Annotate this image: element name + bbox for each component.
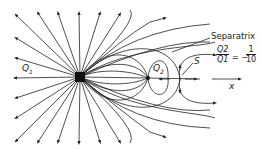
flow-diagram: Q1 Q2 Separatrix S x Q2Q1 = − 110 [0,0,262,149]
sink-point [146,76,150,80]
source-point [75,72,85,82]
axis-label: x [229,82,234,91]
stagnation-label: S [194,57,200,66]
source-radial-lines [15,10,240,143]
streamline-plot [0,0,262,149]
ratio-value: 110 [246,45,256,64]
ratio-numerator: Q2Q1 [216,45,229,64]
source-label: Q1 [22,64,33,75]
sink-label: Q2 [153,64,164,75]
separatrix-label: Separatrix [211,32,255,41]
